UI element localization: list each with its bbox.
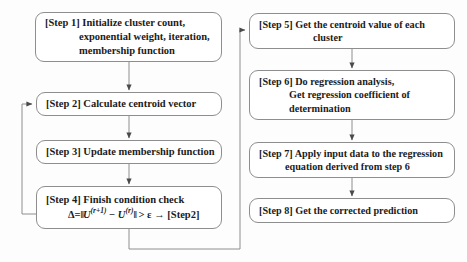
node-step-7-line-2: equation derived from step 6 [259, 160, 445, 173]
node-step-1-line-1: [Step 1] Initialize cluster count, [45, 16, 212, 30]
node-step-6-line-2: Get regression coefficient of [259, 88, 445, 101]
node-step-6-line-1: [Step 6] Do regression analysis, [259, 75, 445, 88]
node-step-7-line-1: [Step 7] Apply input data to the regress… [259, 147, 445, 160]
formula-norm-close: ‖ [133, 209, 135, 220]
formula-u-next: U [83, 209, 91, 220]
node-step-3-line-1: [Step 3] Update membership function [46, 145, 212, 159]
formula-sup-next: (r+1) [91, 206, 107, 215]
node-step-2-line-1: [Step 2] Calculate centroid vector [46, 97, 212, 111]
node-step-1-line-3: membership function [45, 44, 212, 58]
formula-target: [Step2] [167, 209, 199, 220]
node-step-5-line-1: [Step 5] Get the centroid value of each [259, 18, 445, 31]
node-step-8-line-1: [Step 8] Get the corrected prediction [259, 204, 445, 217]
node-step-5-line-2: cluster [259, 31, 445, 44]
node-step-8[interactable]: [Step 8] Get the corrected prediction [249, 198, 455, 223]
formula-arrow-icon: → [154, 209, 165, 220]
node-step-2[interactable]: [Step 2] Calculate centroid vector [36, 92, 222, 116]
node-step-4[interactable]: [Step 4] Finish condition check Δ=‖U(r+1… [36, 186, 222, 229]
formula-minus: − [109, 209, 115, 220]
node-step-3[interactable]: [Step 3] Update membership function [36, 140, 222, 164]
node-step-6[interactable]: [Step 6] Do regression analysis, Get reg… [249, 70, 455, 120]
node-step-7[interactable]: [Step 7] Apply input data to the regress… [249, 142, 455, 178]
node-step-1-line-2: exponential weight, iteration, [45, 30, 212, 44]
node-step-1[interactable]: [Step 1] Initialize cluster count, expon… [35, 12, 222, 62]
node-step-4-formula: Δ=‖U(r+1) − U(r)‖ > ε → [Step2] [46, 206, 212, 222]
formula-delta: Δ= [68, 209, 81, 220]
node-step-4-line-1: [Step 4] Finish condition check [46, 193, 212, 207]
edge-step4-step2-feedback [22, 104, 36, 214]
node-step-5[interactable]: [Step 5] Get the centroid value of each … [249, 13, 455, 49]
flowchart-canvas: [Step 1] Initialize cluster count, expon… [0, 0, 467, 262]
node-step-6-line-3: determination [259, 102, 445, 115]
formula-compare: > ε [138, 209, 151, 220]
